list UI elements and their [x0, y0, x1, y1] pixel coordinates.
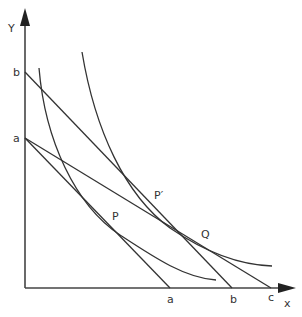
y-intercept-b: b	[13, 66, 20, 79]
x-axis-arrow-icon	[278, 283, 296, 293]
indifference-curve-2	[82, 52, 272, 266]
point-q: Q	[201, 228, 210, 241]
y-axis-arrow-icon	[20, 8, 30, 26]
x-intercept-c: c	[268, 291, 274, 304]
indifference-curve-1	[39, 68, 216, 280]
y-intercept-a: a	[13, 132, 20, 145]
x-axis-label: x	[284, 297, 291, 310]
x-intercept-a: a	[167, 293, 174, 306]
point-p: P	[112, 210, 119, 223]
point-p-prime: P′	[154, 189, 164, 202]
y-axis-label: Y	[7, 22, 15, 35]
x-intercept-b: b	[230, 293, 237, 306]
indifference-diagram: Y x b a a b c P P′ Q	[0, 0, 302, 317]
budget-line-b-b	[25, 72, 232, 288]
